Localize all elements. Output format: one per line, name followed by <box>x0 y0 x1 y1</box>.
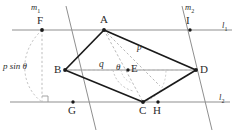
label-angle-theta: θ <box>116 63 120 72</box>
label-vertex-D: D <box>200 64 208 75</box>
label-point-F: F <box>37 15 43 26</box>
vertex-dot-I <box>188 28 191 31</box>
label-line-m2: m2 <box>185 3 194 14</box>
label-segment-q: q <box>99 60 104 70</box>
vertex-dot-B <box>63 68 67 72</box>
label-line-m1: m1 <box>31 3 40 14</box>
label-point-I: I <box>186 15 190 26</box>
label-point-G: G <box>68 105 76 116</box>
label-line-l2: l2 <box>219 93 224 104</box>
vertex-dot-E <box>126 68 129 71</box>
arc-angle-theta <box>113 70 133 91</box>
right-angle-marker <box>42 96 48 102</box>
label-vertex-C: C <box>139 105 146 116</box>
arc-p-sin-theta <box>25 30 42 102</box>
vertex-dot-D <box>194 68 198 72</box>
edge-c-d <box>143 70 196 102</box>
vertex-dot-A <box>102 28 106 32</box>
label-height-p-sin-theta: p sin θ <box>3 62 27 71</box>
label-point-H: H <box>153 105 161 116</box>
label-vertex-A: A <box>100 14 108 25</box>
arc-c-to-d <box>143 70 166 102</box>
edge-b-c <box>65 70 143 102</box>
label-segment-p: p <box>137 43 142 53</box>
label-centre-E: E <box>131 63 138 74</box>
dashed-segment-p <box>104 30 160 86</box>
diagram-canvas: m1 m2 l1 l2 F A I B D E G C H p sin θ p … <box>0 0 237 136</box>
label-vertex-B: B <box>54 64 61 75</box>
label-line-l1: l1 <box>222 21 227 32</box>
vertex-dot-F <box>40 28 44 32</box>
